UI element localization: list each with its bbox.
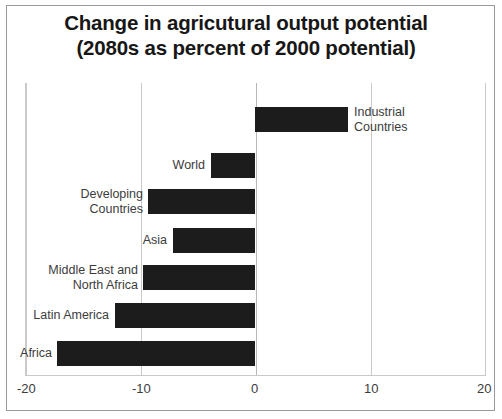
chart-screenshot: Change in agricutural output potential (… (0, 0, 502, 419)
chart-title: Change in agricutural output potential (… (10, 10, 482, 60)
bar-label-industrial-countries: Industrial Countries (354, 105, 464, 134)
bar-middle-east-and-north-africa[interactable] (143, 265, 255, 290)
x-tick-label-10: 10 (364, 381, 378, 396)
bar-label-developing-countries: Developing Countries (25, 187, 143, 216)
bar-latin-america[interactable] (115, 303, 255, 328)
x-axis-tick-labels: -20 -10 0 10 20 (0, 381, 502, 405)
bar-asia[interactable] (173, 228, 255, 253)
bar-label-world: World (91, 158, 205, 173)
x-tick-label-20: 20 (477, 381, 491, 396)
bars-layer: Industrial Countries World Developing Co… (25, 83, 486, 376)
bar-label-latin-america: Latin America (0, 308, 109, 323)
x-tick-label--20: -20 (17, 381, 36, 396)
chart-title-line-1: Change in agricutural output potential (64, 11, 428, 34)
bar-industrial-countries[interactable] (255, 107, 348, 132)
bar-world[interactable] (211, 153, 255, 178)
bar-africa[interactable] (57, 341, 255, 366)
chart-title-line-2: (2080s as percent of 2000 potential) (10, 35, 482, 60)
bar-label-africa: Africa (0, 346, 52, 361)
bar-label-asia: Asia (51, 233, 167, 248)
x-tick-label-0: 0 (251, 381, 258, 396)
x-tick-label--10: -10 (132, 381, 151, 396)
bar-developing-countries[interactable] (148, 189, 255, 214)
bar-label-middle-east-and-north-africa: Middle East and North Africa (3, 263, 138, 292)
